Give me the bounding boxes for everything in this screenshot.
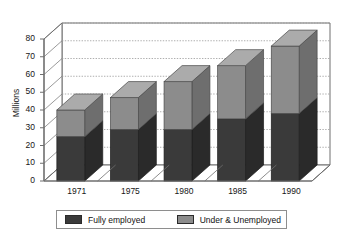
legend-item-fully-employed: Fully employed	[57, 211, 169, 228]
x-axis-tick-label: 1985	[216, 187, 260, 196]
x-axis-tick-label: 1971	[55, 187, 99, 196]
x-axis-tick-label: 1975	[108, 187, 152, 196]
legend-label: Fully employed	[88, 215, 145, 225]
x-axis-tick-label: 1980	[162, 187, 206, 196]
plot-area: Millions 80706050403020100 1971197519801…	[0, 14, 343, 204]
legend-swatch-icon	[177, 215, 194, 224]
y-axis-tick-label: 10	[13, 158, 35, 166]
legend-item-under-unemployed: Under & Unemployed	[169, 211, 286, 228]
chart-svg	[0, 14, 343, 204]
y-axis-tick-label: 0	[13, 176, 35, 184]
legend-label: Under & Unemployed	[200, 215, 281, 225]
chart-legend: Fully employed Under & Unemployed	[56, 210, 287, 229]
y-axis-tick-label: 60	[13, 70, 35, 78]
y-axis-tick-label: 40	[13, 105, 35, 113]
chart-title	[0, 0, 343, 14]
chart-container: Millions 80706050403020100 1971197519801…	[0, 0, 343, 242]
y-axis-tick-label: 20	[13, 141, 35, 149]
y-axis-tick-label: 50	[13, 87, 35, 95]
y-axis-tick-label: 70	[13, 52, 35, 60]
y-axis-tick-label: 80	[13, 34, 35, 42]
legend-swatch-icon	[65, 215, 82, 224]
y-axis-tick-label: 30	[13, 123, 35, 131]
x-axis-tick-label: 1990	[269, 187, 313, 196]
